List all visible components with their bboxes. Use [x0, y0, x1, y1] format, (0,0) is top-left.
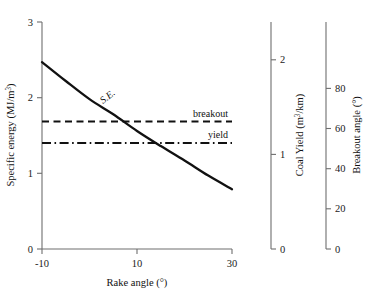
- secondary-axis-group-coal-yield: 0 1 2 Coal Yield (m3/km): [271, 22, 306, 255]
- y3-tick-label-40: 40: [335, 163, 346, 174]
- chart-figure: 0 1 2 3 -10 10 30 Rake angle (°) Specifi…: [0, 0, 369, 297]
- y3-tick-label-0: 0: [335, 244, 340, 255]
- y-tick-label-2: 2: [28, 92, 33, 103]
- y3-tick-label-80: 80: [335, 83, 346, 94]
- x-tick-label-10: 10: [132, 258, 143, 269]
- y2-tick-label-2: 2: [280, 54, 285, 65]
- y3-axis-title-breakout-angle: Breakout angle (°): [351, 96, 363, 174]
- x-axis-title: Rake angle (°): [107, 277, 168, 289]
- y2-axis-title-prefix: Coal Yield (m: [294, 117, 306, 176]
- y-axis-title-prefix: Specific energy (MJ/m: [5, 91, 17, 187]
- tertiary-axis-group-breakout-angle: 0 20 40 60 80 Breakout angle (°): [326, 22, 363, 255]
- chart-svg: 0 1 2 3 -10 10 30 Rake angle (°) Specifi…: [0, 0, 369, 297]
- y2-axis-title-suffix: /km): [294, 93, 306, 113]
- series-line-specific-energy: [42, 62, 232, 189]
- y-axis-title-suffix: ): [5, 83, 17, 87]
- y-axis-title-specific-energy: Specific energy (MJ/m3): [5, 83, 18, 187]
- y-tick-label-0: 0: [28, 244, 33, 255]
- y-tick-label-1: 1: [28, 168, 33, 179]
- y3-tick-label-60: 60: [335, 123, 346, 134]
- series-labels-group: breakout yield S.E.: [97, 87, 228, 140]
- y2-tick-label-1: 1: [280, 149, 285, 160]
- y2-axis-title-coal-yield: Coal Yield (m3/km): [294, 93, 307, 176]
- series-label-specific-energy: S.E.: [97, 87, 116, 106]
- x-tick-label-30: 30: [227, 258, 238, 269]
- series-group: [42, 62, 232, 189]
- series-label-breakout: breakout: [193, 108, 228, 119]
- primary-axes-group: 0 1 2 3 -10 10 30 Rake angle (°) Specifi…: [5, 17, 238, 289]
- y2-tick-label-0: 0: [280, 244, 285, 255]
- series-label-yield: yield: [208, 129, 228, 140]
- x-tick-label-minus10: -10: [35, 258, 49, 269]
- y-tick-label-3: 3: [28, 17, 33, 28]
- y3-tick-label-20: 20: [335, 203, 346, 214]
